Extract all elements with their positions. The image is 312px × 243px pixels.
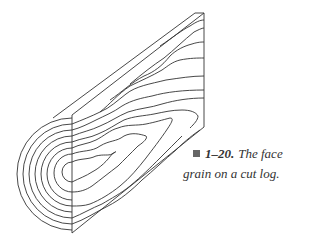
cut-log-illustration xyxy=(0,0,312,243)
caption-marker-icon xyxy=(193,150,200,157)
figure-container: 1–20.The face grain on a cut log. xyxy=(0,0,312,243)
figure-number: 1–20. xyxy=(205,146,234,161)
figure-caption-line1: 1–20.The face xyxy=(193,146,283,162)
caption-text-1: The face xyxy=(238,146,282,161)
face-grain-lines xyxy=(72,20,204,224)
figure-caption-line2: grain on a cut log. xyxy=(183,166,279,182)
growth-rings xyxy=(17,118,72,230)
